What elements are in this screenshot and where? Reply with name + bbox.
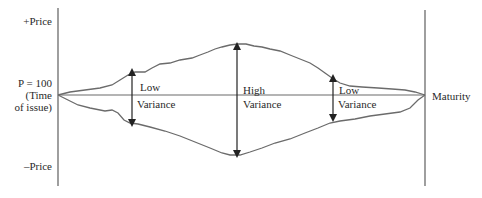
price-variance-diagram: +Price P = 100 (Time of issue) –Price Ma…	[0, 0, 482, 198]
left-low-label: Low	[140, 81, 160, 93]
left-variance-label: Variance	[137, 98, 175, 110]
diagram-graphics	[0, 0, 482, 198]
maturity-label: Maturity	[432, 90, 471, 102]
right-variance-label: Variance	[338, 98, 376, 110]
center-high-label: High	[243, 84, 265, 96]
time-of-issue-label-1: (Time	[26, 89, 53, 101]
center-variance-label: Variance	[243, 98, 281, 110]
plus-price-label: +Price	[23, 15, 52, 27]
time-of-issue-label-2: of issue)	[14, 101, 52, 113]
upper-price-bound	[58, 44, 425, 95]
par-price-label: P = 100	[18, 77, 52, 89]
minus-price-label: –Price	[24, 160, 52, 172]
right-low-label: Low	[339, 84, 359, 96]
